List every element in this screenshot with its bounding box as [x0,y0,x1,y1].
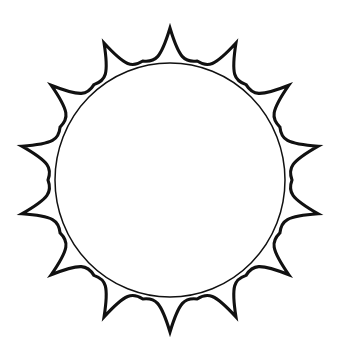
background-rect [0,0,341,360]
drawing-canvas [0,0,341,360]
sun-line-art [0,0,341,360]
